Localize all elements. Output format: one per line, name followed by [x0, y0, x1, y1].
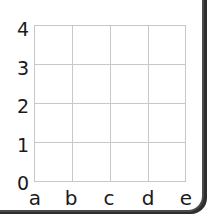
grid-line-xe [185, 25, 186, 182]
grid-line-xb [72, 25, 73, 182]
y-label-4: 4 [16, 19, 30, 39]
x-label-a: a [27, 188, 43, 208]
x-label-e: e [178, 188, 194, 208]
y-label-2: 2 [16, 96, 30, 116]
y-label-1: 1 [16, 135, 30, 155]
coordinate-grid [34, 25, 186, 182]
x-label-b: b [63, 188, 79, 208]
x-label-c: c [101, 188, 117, 208]
x-label-d: d [140, 188, 156, 208]
y-label-3: 3 [16, 58, 30, 78]
grid-line-xc [110, 25, 111, 182]
grid-line-xd [148, 25, 149, 182]
grid-line-xa [34, 25, 35, 182]
